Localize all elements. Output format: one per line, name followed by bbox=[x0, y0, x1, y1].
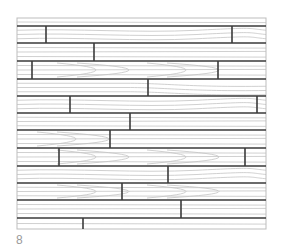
floor-plank-figure: 8 bbox=[0, 0, 282, 252]
grain-line bbox=[17, 191, 266, 192]
grain-line bbox=[17, 88, 266, 91]
grain-line bbox=[17, 196, 266, 197]
grain-line bbox=[17, 168, 266, 171]
grain-line bbox=[17, 162, 266, 163]
grain-line bbox=[17, 66, 266, 67]
grain-line bbox=[17, 48, 266, 49]
grain-line bbox=[17, 98, 266, 101]
grain-line bbox=[17, 37, 266, 40]
grain-line bbox=[17, 205, 266, 206]
grain-line bbox=[17, 33, 266, 36]
figure-label: 8 bbox=[16, 234, 23, 246]
grain-line bbox=[17, 28, 266, 31]
grain-line bbox=[17, 107, 266, 110]
grain-line bbox=[17, 121, 266, 122]
grain-line bbox=[17, 173, 266, 176]
grain-line bbox=[17, 126, 266, 127]
grain-line bbox=[17, 92, 266, 95]
grain-line bbox=[17, 51, 266, 52]
grain-line bbox=[17, 117, 266, 118]
grain-line bbox=[17, 177, 266, 180]
grain-line bbox=[17, 214, 266, 215]
grain-line bbox=[17, 208, 266, 209]
plank-drawing bbox=[0, 0, 282, 252]
grain-line bbox=[17, 138, 266, 139]
grain-line bbox=[17, 57, 266, 58]
grain-line bbox=[17, 22, 266, 23]
grain-line bbox=[17, 103, 266, 106]
grain-line bbox=[17, 69, 266, 70]
figure-frame bbox=[17, 18, 266, 229]
grain-line bbox=[17, 187, 266, 188]
grain-line bbox=[17, 224, 266, 225]
grain-line bbox=[17, 156, 266, 157]
grain-line bbox=[17, 83, 266, 86]
grain-line bbox=[17, 75, 266, 76]
grain-line bbox=[17, 153, 266, 154]
grain-line bbox=[17, 135, 266, 136]
